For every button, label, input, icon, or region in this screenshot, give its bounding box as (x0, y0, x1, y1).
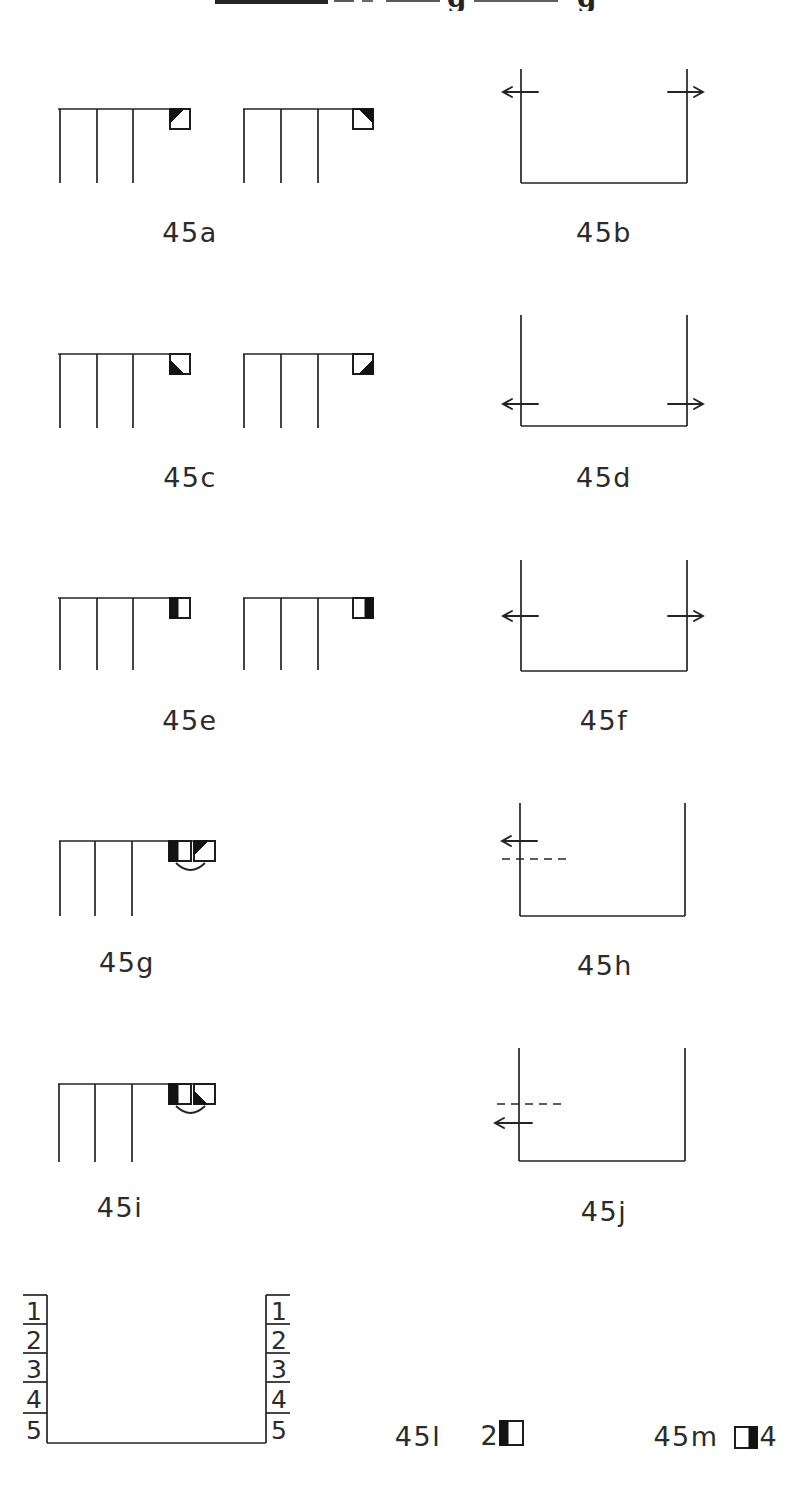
figures-canvas: 45a45b45c45d45e45f45g45h45i45j1234512345… (0, 0, 797, 1499)
figure-45c: 45c (58, 354, 373, 493)
document-page: g g 45a45b45c45d45e45f45g45h45i45j123451… (0, 0, 797, 1499)
exit-arrow-right-top (668, 87, 703, 97)
top-left-corner-fill (194, 841, 208, 855)
wing-number-left-3: 3 (26, 1355, 42, 1384)
right-stripe-fill (749, 1427, 757, 1448)
exit-arrow-left (495, 1118, 532, 1128)
figure-45l: 245l (395, 1420, 523, 1452)
figure-45j: 45j (495, 1048, 685, 1227)
wing-number-right-4: 4 (271, 1385, 287, 1414)
left-half-fill (169, 841, 178, 861)
bottom-left-corner-fill (194, 1091, 207, 1104)
left-half-fill (170, 598, 178, 618)
figure-45h: 45h (502, 803, 685, 981)
figure-45l-label: 45l (395, 1421, 441, 1452)
wing-number-left-1: 1 (26, 1297, 42, 1326)
wing-number-left-4: 4 (26, 1385, 42, 1414)
figure-45f: 45f (503, 560, 703, 736)
exit-arrow-right-bottom (668, 399, 703, 409)
figure-45h-label: 45h (577, 950, 633, 981)
figure-45c-label: 45c (163, 462, 217, 493)
wing-number-right-1: 1 (271, 1297, 287, 1326)
tie-arc (176, 863, 205, 870)
bottom-left-corner-fill (170, 360, 184, 374)
tie-arc (176, 1106, 205, 1113)
wing-number-right-5: 5 (271, 1416, 287, 1445)
right-half-fill (365, 598, 373, 618)
figure-45g-label: 45g (99, 947, 155, 978)
bottom-right-corner-fill (359, 360, 373, 374)
left-half-fill (169, 1084, 178, 1104)
wing-number-left-2: 2 (26, 1326, 42, 1355)
figure-45m-label: 45m (653, 1421, 718, 1452)
figure-45f-label: 45f (580, 705, 628, 736)
figure-45i: 45i (58, 1084, 215, 1223)
figure-45e-label: 45e (162, 705, 217, 736)
figure-45b-label: 45b (576, 217, 632, 248)
figure-45i-label: 45i (97, 1192, 143, 1223)
wing-number-right-3: 3 (271, 1355, 287, 1384)
figure-45a-label: 45a (162, 217, 217, 248)
figure-45g: 45g (59, 841, 215, 978)
wing-number-left-5: 5 (26, 1416, 42, 1445)
figure-45k-wing-numbers: 1234512345 (23, 1295, 290, 1445)
wing-number-right-2: 2 (271, 1326, 287, 1355)
top-left-corner-fill (170, 109, 184, 123)
figure-45a: 45a (58, 109, 373, 248)
left-stripe-fill (500, 1421, 508, 1445)
figure-45j-label: 45j (581, 1196, 627, 1227)
exit-arrow-right-middle (668, 611, 703, 621)
figure-45d: 45d (503, 315, 703, 493)
figure-45e: 45e (58, 598, 373, 736)
figure-45m: 445m (653, 1421, 776, 1452)
figure-45b: 45b (503, 69, 703, 248)
figure-45d-label: 45d (576, 462, 632, 493)
wing-number-2: 2 (480, 1420, 497, 1451)
wing-number-4: 4 (759, 1421, 776, 1452)
top-right-corner-fill (359, 109, 373, 123)
